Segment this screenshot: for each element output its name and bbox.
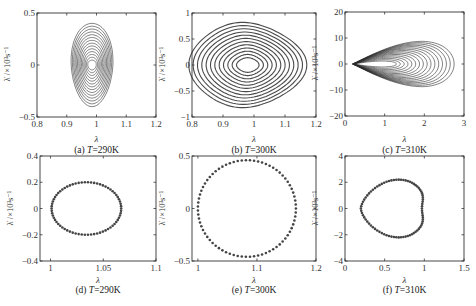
y-tick-label: 2: [339, 177, 344, 187]
y-tick-label: −4: [333, 256, 343, 266]
subplot-caption-f: (f) T=310K: [345, 285, 464, 295]
plot-area-f: 00.511.5−4−2024: [0, 0, 476, 306]
data-series-f: [360, 178, 425, 238]
y-tick-label: 0: [339, 204, 344, 214]
x-tick-label: 0.5: [379, 263, 391, 273]
y-axis-label: λ̇ /×10³s⁻¹: [310, 168, 320, 248]
y-tick-label: −2: [333, 230, 343, 240]
y-tick-label: 4: [339, 151, 344, 161]
axes-frame-f: [345, 156, 464, 261]
x-tick-label: 0: [343, 263, 348, 273]
x-tick-label: 1: [422, 263, 427, 273]
x-axis-label: λ: [345, 275, 464, 285]
x-tick-label: 1.5: [458, 263, 470, 273]
